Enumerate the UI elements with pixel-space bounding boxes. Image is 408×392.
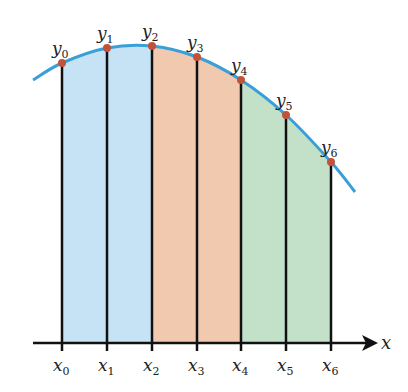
y-label-0: y0 (51, 38, 69, 61)
x-label-6: x6 (322, 355, 339, 378)
x-label-4: x4 (232, 355, 249, 378)
x-label-5: x5 (277, 355, 294, 378)
x-label-3: x3 (188, 355, 205, 378)
x-label-0: x0 (53, 355, 70, 378)
x-label-1: x1 (98, 355, 115, 378)
y-label-4: y4 (230, 55, 248, 78)
y-label-5: y5 (275, 90, 293, 113)
y-label-2: y2 (141, 21, 159, 44)
axis-label: x (381, 332, 391, 353)
y-label-6: y6 (320, 137, 338, 160)
x-label-2: x2 (143, 355, 160, 378)
diagram-canvas: x y0x0y1x1y2x2y3x3y4x4y5x5y6x6 (0, 0, 408, 392)
y-label-1: y1 (96, 23, 114, 46)
y-label-3: y3 (186, 32, 204, 55)
diagram: x y0x0y1x1y2x2y3x3y4x4y5x5y6x6 (0, 0, 408, 392)
